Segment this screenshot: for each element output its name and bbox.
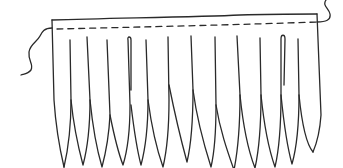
fringe-top-edge: [52, 14, 317, 20]
strand: [193, 37, 216, 167]
strand: [64, 40, 71, 167]
strand: [90, 40, 110, 167]
left-thread: [21, 28, 52, 75]
strand: [216, 36, 240, 168]
strand: [131, 40, 148, 165]
fringe-illustration: [0, 0, 343, 168]
strand: [281, 39, 299, 164]
strand: [148, 37, 169, 167]
fringe-right-edge: [313, 14, 321, 152]
strand: [110, 37, 131, 165]
strand: [71, 37, 90, 165]
strand: [169, 36, 193, 162]
fringe-left-edge: [52, 20, 64, 167]
strand: [299, 95, 313, 152]
strand: [240, 38, 261, 168]
stitch-line: [57, 22, 317, 29]
fringe-drawing: [0, 0, 343, 168]
right-thread: [317, 0, 330, 22]
